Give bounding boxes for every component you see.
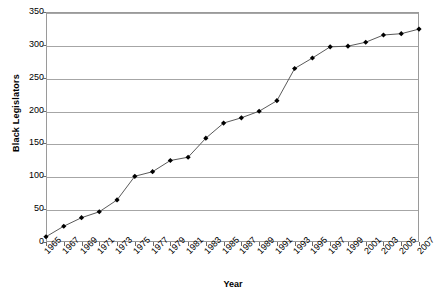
data-series-layer bbox=[46, 12, 419, 242]
y-tick-label: 300 bbox=[4, 40, 44, 49]
data-point bbox=[399, 31, 404, 36]
y-tick-label: 200 bbox=[4, 106, 44, 115]
data-point bbox=[239, 115, 244, 120]
data-point bbox=[310, 55, 315, 60]
data-point bbox=[79, 215, 84, 220]
y-tick-label: 150 bbox=[4, 138, 44, 147]
y-tick-label: 50 bbox=[4, 204, 44, 213]
x-axis-title: Year bbox=[46, 279, 420, 289]
y-tick-label: 250 bbox=[4, 73, 44, 82]
data-point bbox=[274, 98, 279, 103]
y-tick-label: 100 bbox=[4, 171, 44, 180]
data-point bbox=[43, 234, 48, 239]
data-point bbox=[328, 44, 333, 49]
data-point bbox=[257, 109, 262, 114]
y-tick-label: 350 bbox=[4, 7, 44, 16]
data-point bbox=[416, 26, 421, 31]
data-point bbox=[168, 158, 173, 163]
data-point bbox=[97, 209, 102, 214]
data-point bbox=[345, 44, 350, 49]
y-tick-label: 0 bbox=[4, 237, 44, 246]
data-point bbox=[363, 40, 368, 45]
data-point bbox=[150, 169, 155, 174]
data-point bbox=[61, 224, 66, 229]
series-markers bbox=[43, 26, 421, 239]
series-line bbox=[46, 29, 419, 237]
data-point bbox=[292, 66, 297, 71]
data-point bbox=[381, 32, 386, 37]
